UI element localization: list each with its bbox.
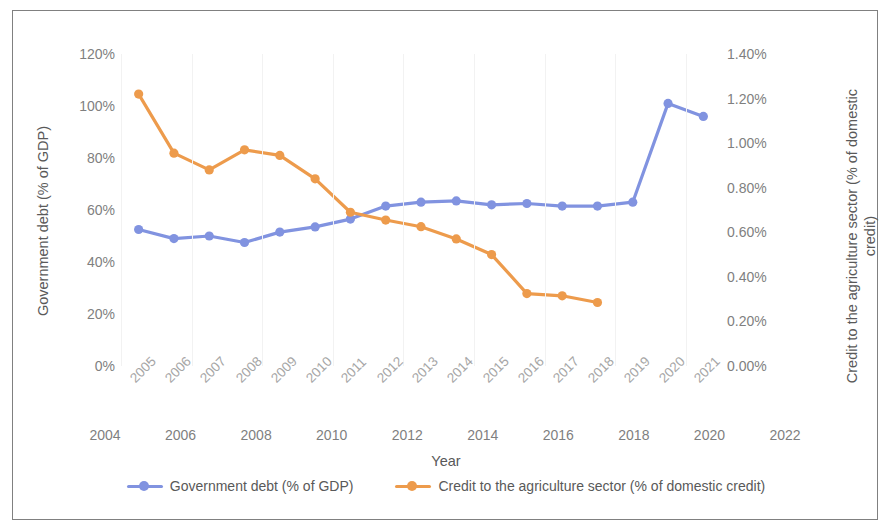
series-marker xyxy=(522,199,531,208)
series-marker xyxy=(134,225,143,234)
gridline xyxy=(121,54,122,366)
series-line xyxy=(139,103,704,242)
series-marker xyxy=(311,222,320,231)
gridline xyxy=(545,54,546,366)
gridline xyxy=(686,54,687,366)
series-marker xyxy=(487,250,496,259)
series-marker xyxy=(205,231,214,240)
plot-area xyxy=(121,54,721,366)
gridline xyxy=(615,54,616,366)
x-axis-secondary-tick-label: 2006 xyxy=(165,427,196,443)
left-axis-tick-label: 60% xyxy=(61,202,115,218)
x-axis-secondary-tick-label: 2022 xyxy=(769,427,800,443)
series-marker xyxy=(169,234,178,243)
right-axis-ticks: 0.00%0.20%0.40%0.60%0.80%1.00%1.20%1.40% xyxy=(727,54,795,366)
series-marker xyxy=(699,112,708,121)
series-marker xyxy=(558,291,567,300)
right-axis-tick-label: 0.00% xyxy=(727,358,793,374)
series-marker xyxy=(593,298,602,307)
x-axis-secondary-tick-label: 2018 xyxy=(618,427,649,443)
left-axis-tick-label: 40% xyxy=(61,254,115,270)
series-line xyxy=(139,94,598,302)
series-marker xyxy=(452,234,461,243)
chart-figure: Government debt (% of GDP) Credit to the… xyxy=(12,10,878,520)
x-axis-category-labels: 2005200620072008200920102011201220132014… xyxy=(121,369,721,421)
right-axis-tick-label: 1.00% xyxy=(727,135,793,151)
gridline xyxy=(262,54,263,366)
series-marker xyxy=(663,99,672,108)
series-marker xyxy=(346,208,355,217)
right-axis-tick-label: 1.20% xyxy=(727,91,793,107)
right-axis-tick-label: 0.40% xyxy=(727,269,793,285)
right-axis-tick-label: 0.20% xyxy=(727,313,793,329)
legend-key-icon xyxy=(395,480,431,492)
x-axis-secondary-tick-label: 2020 xyxy=(694,427,725,443)
series-marker xyxy=(628,198,637,207)
series-marker xyxy=(416,222,425,231)
x-axis-secondary-tick-label: 2004 xyxy=(89,427,120,443)
gridline xyxy=(192,54,193,366)
series-canvas xyxy=(121,54,721,366)
left-axis-tick-label: 80% xyxy=(61,150,115,166)
series-marker xyxy=(311,174,320,183)
legend-label: Government debt (% of GDP) xyxy=(170,478,354,494)
left-axis-tick-label: 0% xyxy=(61,358,115,374)
legend-key-icon xyxy=(127,480,163,492)
right-axis-title: Credit to the agriculture sector (% of d… xyxy=(841,46,881,426)
series-marker xyxy=(134,90,143,99)
x-axis-secondary-tick-label: 2012 xyxy=(392,427,423,443)
series-marker xyxy=(275,151,284,160)
x-axis-secondary-labels: 2004200620082010201220142016201820202022 xyxy=(13,427,879,451)
legend-item[interactable]: Credit to the agriculture sector (% of d… xyxy=(395,478,765,494)
gridline xyxy=(474,54,475,366)
chart-legend: Government debt (% of GDP)Credit to the … xyxy=(13,478,879,494)
series-marker xyxy=(487,200,496,209)
series-marker xyxy=(205,165,214,174)
series-marker xyxy=(169,149,178,158)
right-axis-tick-label: 0.60% xyxy=(727,224,793,240)
right-axis-tick-label: 0.80% xyxy=(727,180,793,196)
series-marker xyxy=(381,215,390,224)
x-axis-secondary-tick-label: 2008 xyxy=(241,427,272,443)
x-axis-title: Year xyxy=(13,453,879,469)
right-axis-tick-label: 1.40% xyxy=(727,46,793,62)
legend-label: Credit to the agriculture sector (% of d… xyxy=(438,478,765,494)
series-marker xyxy=(558,202,567,211)
left-axis-ticks: 0%20%40%60%80%100%120% xyxy=(55,54,115,366)
x-axis-secondary-tick-label: 2014 xyxy=(467,427,498,443)
series-marker xyxy=(452,196,461,205)
left-axis-title: Government debt (% of GDP) xyxy=(31,71,55,371)
series-marker xyxy=(381,202,390,211)
left-axis-tick-label: 100% xyxy=(61,98,115,114)
series-marker xyxy=(522,289,531,298)
left-axis-tick-label: 20% xyxy=(61,306,115,322)
x-axis-secondary-tick-label: 2016 xyxy=(543,427,574,443)
left-axis-tick-label: 120% xyxy=(61,46,115,62)
series-marker xyxy=(240,238,249,247)
series-marker xyxy=(240,145,249,154)
series-marker xyxy=(416,198,425,207)
series-marker xyxy=(593,202,602,211)
x-axis-secondary-tick-label: 2010 xyxy=(316,427,347,443)
legend-item[interactable]: Government debt (% of GDP) xyxy=(127,478,354,494)
series-marker xyxy=(275,228,284,237)
gridline xyxy=(333,54,334,366)
gridline xyxy=(403,54,404,366)
